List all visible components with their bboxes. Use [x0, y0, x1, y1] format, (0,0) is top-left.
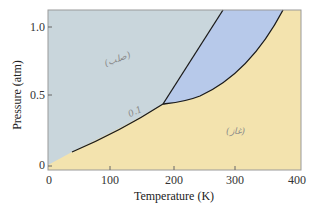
- y-axis-label: Pressure (atm): [10, 60, 24, 130]
- y-tick-1-0: 1.0: [30, 20, 45, 34]
- x-tick-200: 200: [165, 173, 183, 187]
- x-tick-0: 0: [46, 173, 52, 187]
- phase-diagram-chart: 1.0 0.5 0 0 100 200 300 400 Temperature …: [0, 0, 314, 211]
- x-tick-100: 100: [101, 173, 119, 187]
- x-tick-300: 300: [226, 173, 244, 187]
- x-tick-400: 400: [288, 173, 306, 187]
- y-tick-0-5: 0.5: [30, 88, 45, 102]
- x-axis-label: Temperature (K): [134, 189, 214, 203]
- gas-region-note: (ﻏﺎﺯ): [226, 126, 246, 137]
- y-tick-0: 0: [39, 158, 45, 172]
